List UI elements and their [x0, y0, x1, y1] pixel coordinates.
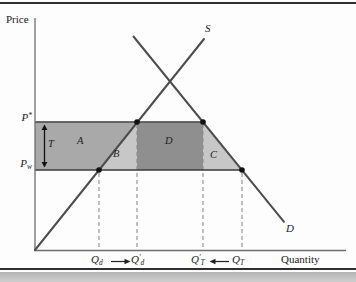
supply-curve-label: S — [205, 23, 211, 34]
footer-shaded-band — [0, 272, 356, 282]
region-b-label: B — [113, 149, 119, 160]
region-c-label: C — [210, 150, 217, 161]
qd-prime-sub: d — [141, 258, 145, 267]
p-w-base: P — [20, 157, 27, 169]
qd-base: Q — [91, 253, 99, 265]
bottom-border-rule — [0, 268, 356, 270]
dot-demand-pstar — [200, 119, 206, 125]
qt-label: QT — [232, 254, 244, 267]
dot-supply-pstar — [134, 119, 140, 125]
arrow-right-icon — [111, 259, 131, 265]
p-w-sub: w — [27, 162, 32, 171]
p-star-sup: * — [28, 111, 32, 120]
qd-label: Qd — [91, 254, 103, 267]
p-w-label: Pw — [8, 158, 32, 171]
demand-curve-label: D — [286, 223, 294, 234]
qt-sub: T — [240, 258, 244, 267]
p-star-label: P* — [8, 112, 32, 123]
qd-prime-base: Q — [131, 253, 139, 265]
y-axis-title: Price — [6, 14, 29, 25]
dot-supply-pw — [96, 167, 102, 173]
region-tariff-label: T — [48, 139, 54, 150]
qd-prime-label: Q′d — [131, 254, 144, 267]
arrow-left-icon — [210, 259, 230, 265]
region-d-label: D — [165, 136, 173, 147]
qt-prime-base: Q — [191, 253, 199, 265]
qt-prime-label: Q′T — [191, 254, 205, 267]
qt-base: Q — [232, 253, 240, 265]
x-axis-title: Quantity — [281, 254, 320, 265]
dot-demand-pw — [239, 167, 245, 173]
region-a-label: A — [77, 136, 83, 147]
qt-prime-sub: T — [201, 258, 205, 267]
figure-tariff-diagram: Price Quantity P* Pw S D T A B D C Qd Q′… — [0, 0, 356, 282]
qd-sub: d — [99, 258, 103, 267]
